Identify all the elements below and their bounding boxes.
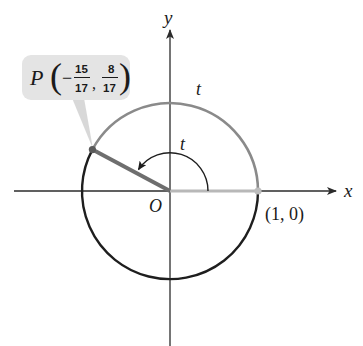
point-P-x-sign: − [62, 68, 72, 88]
point-1-0-label: (1, 0) [265, 204, 304, 225]
point-P-open-paren: ( [50, 56, 62, 96]
angle-t-label: t [180, 134, 186, 154]
x-axis-label: x [343, 180, 353, 201]
point-P-y-numerator: 8 [108, 63, 115, 75]
point-P-marker [89, 146, 96, 153]
arc-t-label: t [196, 79, 202, 99]
point-P-x-denominator: 17 [75, 82, 88, 94]
arc-t [92, 103, 258, 191]
point-P-x-numerator: 15 [75, 63, 88, 75]
angle-t-arc [139, 153, 209, 191]
point-P-name: P [29, 65, 43, 90]
radius-to-P [92, 150, 170, 191]
point-P-close-paren: ) [119, 56, 131, 96]
origin-label: O [149, 196, 162, 216]
point-P-y-denominator: 17 [103, 82, 116, 94]
point-1-0-marker [254, 187, 261, 194]
y-axis-label: y [162, 7, 173, 28]
unit-circle-diagram: P ( − 15 17 , 8 17 ) y x O t t (1, 0) [0, 0, 363, 346]
point-P-comma: , [92, 75, 96, 92]
callout-pointer [72, 98, 93, 149]
